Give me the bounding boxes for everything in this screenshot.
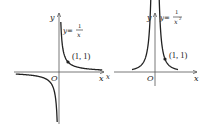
function-graphs: y x O (1, 1) y= 1 x y x x O (1, 1) y= 1 … — [0, 0, 212, 129]
x-axis-label-left: x — [106, 73, 110, 81]
formula: y= 1 x 2 — [159, 8, 182, 26]
x-axis-label: x — [99, 74, 104, 83]
origin-label: O — [147, 74, 154, 83]
y-axis-label: y — [49, 13, 55, 22]
marked-point — [66, 60, 69, 63]
formula-lhs: y= — [159, 14, 170, 22]
graph-reciprocal: y x O (1, 1) y= 1 x — [14, 13, 104, 124]
graph-inverse-square: y x x O (1, 1) y= 1 x 2 — [106, 0, 199, 86]
formula-denominator: x — [174, 18, 178, 26]
x-axis-label: x — [194, 74, 199, 83]
y-axis-label: y — [146, 13, 152, 22]
point-label: (1, 1) — [72, 51, 91, 61]
origin-label: O — [51, 74, 58, 83]
marked-point — [163, 57, 166, 60]
formula-numerator: 1 — [175, 8, 178, 15]
formula-denominator: x — [77, 31, 81, 39]
point-label: (1, 1) — [169, 50, 188, 60]
curve-branch-left — [132, 0, 153, 70]
formula-exponent: 2 — [179, 16, 181, 21]
formula-lhs: y= — [62, 27, 73, 35]
formula-numerator: 1 — [78, 22, 81, 29]
formula: y= 1 x — [62, 22, 83, 39]
